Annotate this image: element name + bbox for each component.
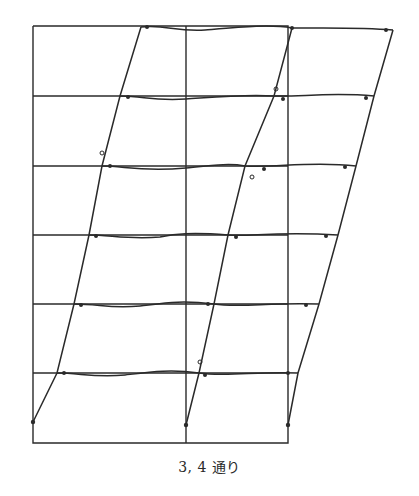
deformed-right-column	[288, 30, 393, 425]
joint-markers	[31, 25, 388, 427]
deformed-middle-column	[186, 28, 292, 425]
deformed-frame-diagram	[0, 0, 419, 450]
deformed-beam-floor-2	[102, 164, 356, 169]
deformed-beam-floor-3	[89, 234, 338, 238]
deformed-left-column	[33, 27, 141, 422]
deformed-beam-roof	[141, 26, 393, 30]
deformed-frame	[33, 26, 393, 425]
diagram-caption: 3, 4 通り	[0, 456, 419, 476]
deformed-beam-floor-1	[120, 94, 374, 99]
